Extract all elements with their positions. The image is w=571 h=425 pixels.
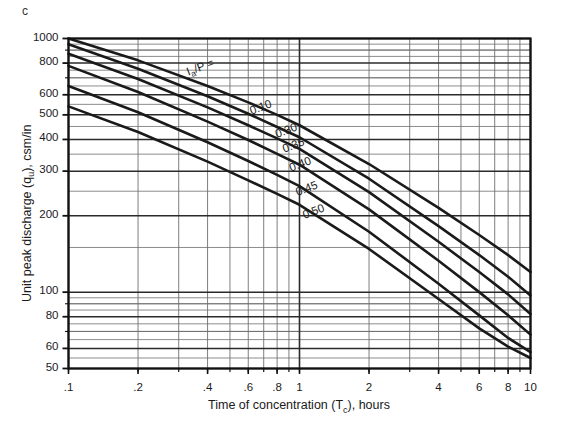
y-tick-label: 600 (39, 87, 58, 99)
y-tick-label: 300 (39, 163, 58, 175)
x-tick-label: 2 (349, 381, 389, 393)
y-tick-label: 800 (39, 55, 58, 67)
x-tick-label: 10 (511, 381, 551, 393)
y-tick-label: 500 (39, 107, 58, 119)
x-tick-label: .2 (118, 381, 158, 393)
y-tick-label: 50 (46, 361, 59, 373)
y-tick-label: 400 (39, 131, 58, 143)
x-tick-label: 1 (280, 381, 320, 393)
curve-labels: 0.100.300.350.400.450.50Ia/P = (185, 56, 326, 221)
curve-label-0.10: 0.10 (248, 97, 273, 116)
y-tick-label: 80 (46, 309, 59, 321)
x-tick-label: .4 (188, 381, 228, 393)
y-tick-label: 60 (46, 340, 59, 352)
y-tick-label: 200 (39, 208, 58, 220)
curve-family-label: Ia/P = (185, 56, 217, 80)
x-tick-label: 4 (419, 381, 459, 393)
figure-container: c Unit peak discharge (qu), csm/in Time … (0, 0, 571, 425)
y-tick-label: 1000 (33, 31, 59, 43)
chart-plot: 0.100.300.350.400.450.50Ia/P = (0, 0, 571, 425)
y-tick-label: 100 (39, 284, 58, 296)
x-tick-label: .1 (49, 381, 89, 393)
